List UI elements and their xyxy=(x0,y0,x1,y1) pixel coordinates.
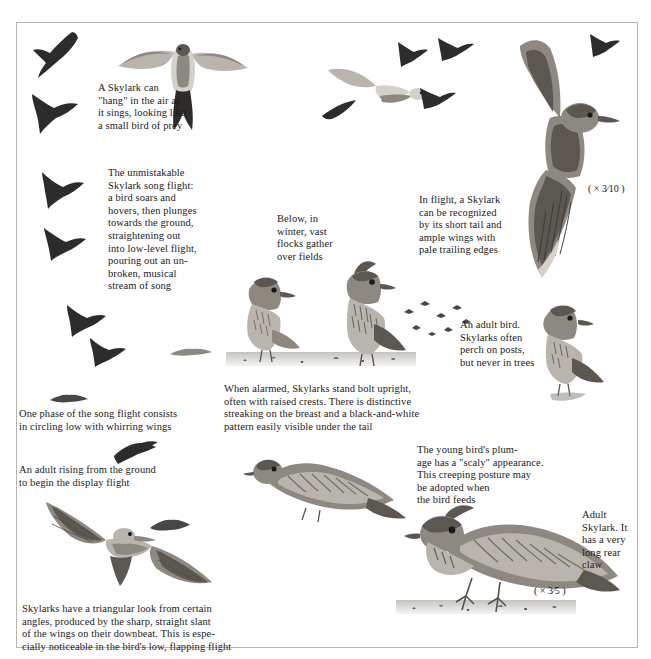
silhouette-bird-rising xyxy=(112,440,162,466)
caption-adult-rising: An adult rising from the ground to begin… xyxy=(19,464,234,489)
silhouette-bird-mid-left-2 xyxy=(40,222,90,262)
skylark-large-in-flight xyxy=(434,36,630,302)
skylark-young-creeping xyxy=(248,444,408,530)
skylark-standing-right-crested xyxy=(326,258,410,368)
caption-in-flight: In flight, a Skylark can be recognized b… xyxy=(419,194,549,257)
caption-song-flight: The unmistakable Skylark song flight: a … xyxy=(108,167,258,293)
silhouette-bird-left-low xyxy=(48,392,90,408)
caption-young-bird: The young bird's plum- age has a "scaly"… xyxy=(417,444,577,507)
silhouette-bird-flock-1 xyxy=(396,38,430,68)
scale-flight: ( × 3⁄10 ) xyxy=(588,183,624,194)
silhouette-bird-gliding-left xyxy=(168,344,214,362)
silhouette-bird-mid-left-3 xyxy=(62,300,110,338)
caption-triangular-look: Skylarks have a triangular look from cer… xyxy=(22,603,312,653)
silhouette-bird-bottom-left-small xyxy=(148,516,192,538)
silhouette-bird-mid-left-4 xyxy=(86,334,130,368)
skylark-triangular-downbeat xyxy=(40,496,218,600)
scale-adult: ( × 3⁄5 ) xyxy=(534,585,565,596)
caption-when-alarmed: When alarmed, Skylarks stand bolt uprigh… xyxy=(224,383,524,433)
field-guide-plate: A Skylark can "hang" in the air as it si… xyxy=(0,0,651,659)
caption-adult-skylark: Adult Skylark. It has a very long rear c… xyxy=(582,509,648,572)
caption-circling-low: One phase of the song flight consists in… xyxy=(19,408,234,433)
silhouette-bird-upper-left-2 xyxy=(24,88,86,136)
caption-winter-flocks: Below, in winter, vast flocks gather ove… xyxy=(277,213,367,263)
caption-adult-perched: An adult bird. Skylarks often perch on p… xyxy=(460,319,575,369)
silhouette-bird-top-left xyxy=(28,28,88,80)
silhouette-bird-mid-left-1 xyxy=(36,168,88,210)
caption-hang-in-air: A Skylark can "hang" in the air as it si… xyxy=(98,82,258,132)
